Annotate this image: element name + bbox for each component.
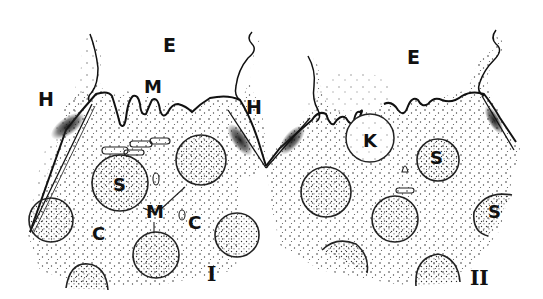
- label-m-top: M: [144, 78, 162, 96]
- label-s-left: S: [113, 176, 126, 194]
- label-m-center: M: [146, 203, 164, 221]
- label-h-left: H: [38, 90, 54, 109]
- panel-label-one: I: [207, 264, 216, 284]
- label-k: K: [363, 132, 377, 150]
- panel-label-two: II: [470, 268, 489, 288]
- cell-illustration: E M H H S M C C I E K S S II: [0, 0, 543, 299]
- label-c-right: C: [188, 214, 201, 232]
- illustration-svg: [0, 0, 543, 299]
- label-h-mid: H: [246, 98, 262, 117]
- panel-two-cell: [266, 30, 520, 285]
- label-s-right-edge: S: [488, 203, 501, 221]
- label-s-right-top: S: [430, 149, 443, 167]
- label-e-left: E: [163, 36, 176, 55]
- label-e-right: E: [407, 48, 420, 67]
- label-c-left: C: [92, 225, 105, 243]
